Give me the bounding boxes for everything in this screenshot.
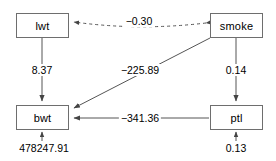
- edge-label-lwt-bwt: 8.37: [30, 64, 54, 76]
- residual-label-bwt: 478247.91: [19, 142, 69, 154]
- node-ptl[interactable]: ptl: [210, 105, 263, 130]
- edge-label-ptl-bwt: −341.36: [119, 112, 161, 124]
- node-smoke-label: smoke: [220, 20, 253, 32]
- node-lwt-label: lwt: [35, 20, 49, 32]
- node-lwt[interactable]: lwt: [16, 13, 69, 38]
- edge-label-smoke-bwt: −225.89: [119, 64, 161, 76]
- residual-label-ptl: 0.13: [226, 142, 246, 154]
- node-bwt[interactable]: bwt: [16, 105, 69, 130]
- node-bwt-label: bwt: [34, 112, 52, 124]
- node-smoke[interactable]: smoke: [210, 13, 263, 38]
- node-ptl-label: ptl: [230, 112, 242, 124]
- edge-label-smoke-ptl: 0.14: [224, 64, 248, 76]
- path-diagram: lwt : dashed, bowed, double-headed --> l…: [0, 0, 276, 161]
- edge-label-smoke-lwt: −0.30: [124, 15, 155, 27]
